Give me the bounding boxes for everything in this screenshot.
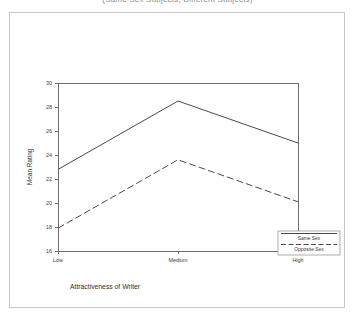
- x-tick-label: High: [292, 257, 303, 263]
- chart-title-strip: (Same Sex Subjects, Different Subjects): [0, 0, 355, 9]
- y-tick-label: 22: [46, 176, 52, 182]
- y-tick-label: 18: [46, 224, 52, 230]
- chart-card: 1618202224262830 LowMediumHigh Attractiv…: [9, 12, 345, 308]
- series-line-same-sex: [58, 101, 298, 169]
- y-axis-title: Mean Rating: [26, 148, 34, 185]
- series-line-opposite-sex: [58, 160, 298, 228]
- x-axis-ticks: LowMediumHigh: [53, 251, 303, 263]
- y-tick-label: 26: [46, 128, 52, 134]
- line-chart-svg: 1618202224262830 LowMediumHigh Attractiv…: [10, 13, 346, 309]
- page-title: (Same Sex Subjects, Different Subjects): [102, 0, 252, 4]
- x-tick-label: Low: [53, 257, 63, 263]
- legend-label-0[interactable]: Same Sex: [298, 236, 321, 241]
- y-axis-ticks: 1618202224262830: [46, 80, 58, 254]
- y-tick-label: 24: [46, 152, 52, 158]
- plot-area: 1618202224262830 LowMediumHigh Attractiv…: [10, 13, 346, 309]
- x-tick-label: Medium: [168, 257, 188, 263]
- y-tick-label: 30: [46, 80, 52, 86]
- y-tick-label: 20: [46, 200, 52, 206]
- y-tick-label: 16: [46, 248, 52, 254]
- legend-label-1[interactable]: Opposite Sex: [294, 247, 324, 252]
- x-axis-title: Attractiveness of Writer: [70, 283, 141, 290]
- y-tick-label: 28: [46, 104, 52, 110]
- chart-legend[interactable]: Same SexOpposite Sex: [278, 231, 340, 255]
